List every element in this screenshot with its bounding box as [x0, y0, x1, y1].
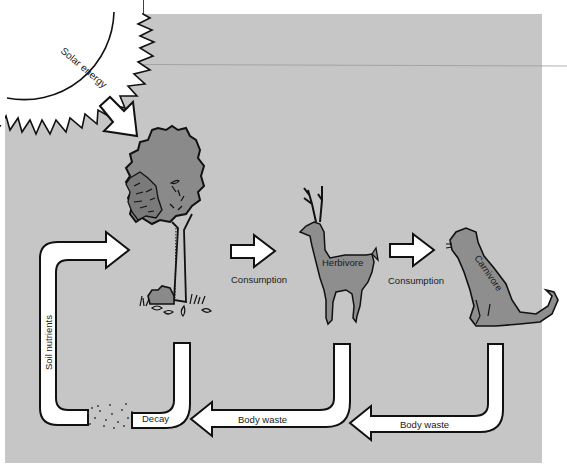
consumption-label-2: Consumption [388, 275, 444, 286]
body-waste-label-1: Body waste [238, 414, 287, 425]
decay-label: Decay [142, 413, 169, 424]
ecosystem-diagram: Solar energy Consumption [0, 0, 567, 466]
soil-nutrients-label: Soil nutrients [43, 315, 54, 370]
body-waste-label-2: Body waste [400, 419, 449, 430]
herbivore-label: Herbivore [322, 257, 363, 268]
consumption-label-1: Consumption [231, 274, 287, 285]
